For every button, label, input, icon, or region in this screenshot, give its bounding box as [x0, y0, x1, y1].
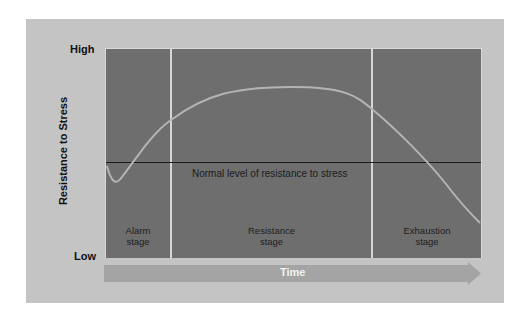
y-axis-low-label: Low	[74, 250, 96, 262]
resistance-curve	[106, 49, 481, 258]
plot-area: Normal level of resistance to stress Ala…	[105, 48, 482, 258]
y-axis-title: Resistance to Stress	[57, 96, 69, 206]
x-axis-title: Time	[280, 266, 305, 278]
y-axis-high-label: High	[70, 43, 94, 55]
